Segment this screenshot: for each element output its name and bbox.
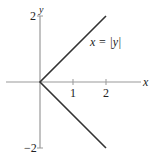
graph-canvas: 1 2 2 −2 x y x = |y| [0,0,155,158]
tick-label-y-top: 2 [30,9,36,23]
x-axis-label: x [142,75,149,89]
y-axis-label: y [38,4,44,15]
tick-label-y-bottom: −2 [24,141,37,155]
tick-label-x1: 1 [70,86,76,100]
curve-label: x = |y| [89,35,121,49]
tick-label-x2: 2 [103,86,109,100]
